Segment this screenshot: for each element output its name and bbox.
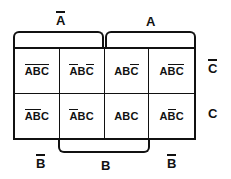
literal-a: A <box>114 110 122 122</box>
axis-label-c: C <box>208 105 217 120</box>
cell-term: ABC <box>114 110 138 122</box>
literal-b: B <box>101 157 110 172</box>
kmap-cell[interactable]: ABC <box>60 49 105 94</box>
literal-a-not: A <box>69 110 77 122</box>
cell-term: ABC <box>159 65 183 77</box>
cell-term: ABC <box>25 110 49 122</box>
kmap-cell[interactable]: ABC <box>15 49 60 94</box>
literal-c: C <box>176 110 184 122</box>
literal-b-not: B <box>167 155 176 170</box>
literal-a-not: A <box>25 110 33 122</box>
literal-c: C <box>41 110 49 122</box>
literal-a: A <box>146 13 155 28</box>
kmap-cell[interactable]: ABC <box>149 94 194 139</box>
cell-term: ABC <box>69 110 93 122</box>
literal-c-not: C <box>41 65 49 77</box>
axis-label-b-not-left: B <box>36 155 45 170</box>
literal-a-not: A <box>25 65 33 77</box>
literal-c-not: C <box>176 65 184 77</box>
literal-c-not: C <box>208 60 217 75</box>
literal-b: B <box>78 65 86 77</box>
literal-c: C <box>130 110 138 122</box>
literal-b: B <box>122 110 130 122</box>
literal-a-not: A <box>69 65 77 77</box>
kmap-cell[interactable]: ABC <box>60 94 105 139</box>
literal-c-not: C <box>86 65 94 77</box>
cell-term: ABC <box>25 65 49 77</box>
cell-term: ABC <box>114 65 138 77</box>
kmap-cell[interactable]: ABC <box>149 49 194 94</box>
literal-b-not: B <box>168 65 176 77</box>
literal-a-not: A <box>56 12 65 27</box>
kmap-cell[interactable]: ABC <box>105 49 150 94</box>
kmap-cell[interactable]: ABC <box>105 94 150 139</box>
literal-b-not: B <box>33 110 41 122</box>
literal-a: A <box>159 65 167 77</box>
literal-c: C <box>208 105 217 120</box>
kmap-cell[interactable]: ABC <box>15 94 60 139</box>
literal-b-not: B <box>168 110 176 122</box>
cell-term: ABC <box>69 65 93 77</box>
bracket-a-not <box>13 31 104 48</box>
kmap-grid: ABC ABC ABC ABC ABC ABC ABC ABC <box>13 47 196 140</box>
axis-label-b-not-right: B <box>167 155 176 170</box>
axis-label-c-not: C <box>208 60 217 75</box>
axis-label-a-not: A <box>56 12 65 27</box>
literal-b: B <box>78 110 86 122</box>
literal-b-not: B <box>33 65 41 77</box>
bracket-a <box>105 31 196 48</box>
literal-c: C <box>86 110 94 122</box>
literal-a: A <box>159 110 167 122</box>
literal-b: B <box>122 65 130 77</box>
literal-a: A <box>114 65 122 77</box>
cell-term: ABC <box>159 110 183 122</box>
literal-b-not: B <box>36 155 45 170</box>
axis-label-b: B <box>101 157 110 172</box>
karnaugh-map-figure: A A ABC ABC ABC ABC ABC ABC ABC ABC C C <box>0 0 231 179</box>
bracket-b <box>58 139 150 153</box>
axis-label-a: A <box>146 13 155 28</box>
literal-c-not: C <box>130 65 138 77</box>
